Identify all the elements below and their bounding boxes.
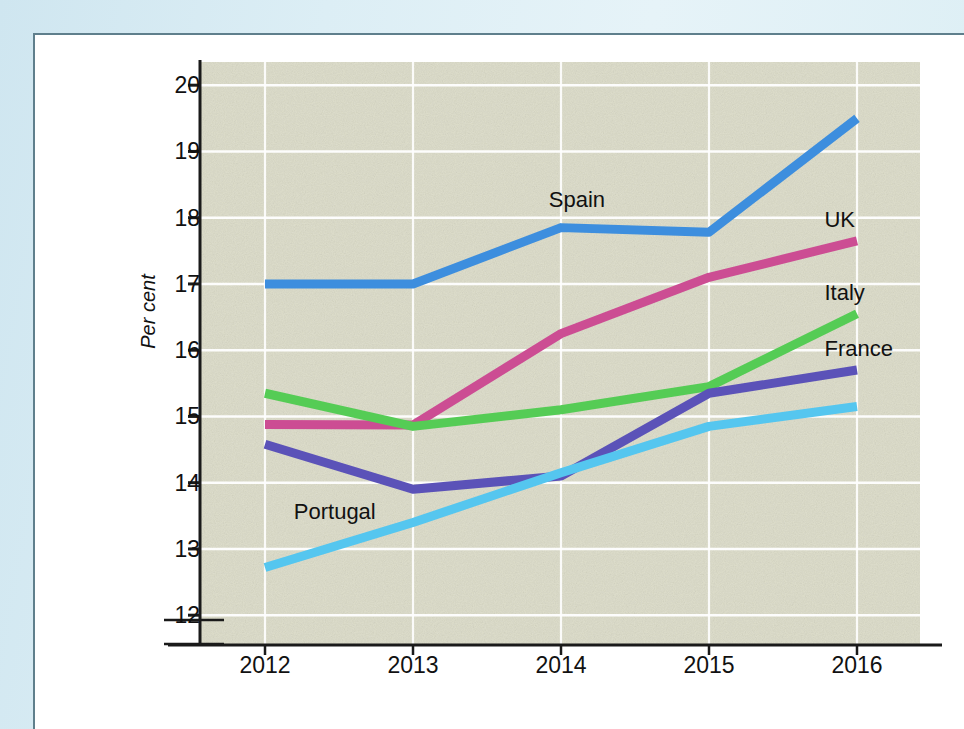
x-tick-label: 2013 (353, 652, 473, 679)
x-tick-label: 2016 (797, 652, 917, 679)
y-tick-label: 20 (140, 72, 200, 99)
chart-figure: 121314151617181920 20122013201420152016 … (0, 0, 964, 729)
series-label-france: France (824, 336, 892, 362)
series-label-spain: Spain (549, 187, 605, 213)
x-tick-label: 2012 (205, 652, 325, 679)
series-label-portugal: Portugal (294, 499, 376, 525)
series-label-italy: Italy (824, 280, 864, 306)
x-tick-label: 2014 (501, 652, 621, 679)
y-tick-label: 14 (140, 469, 200, 496)
y-tick-label: 19 (140, 138, 200, 165)
x-tick-label: 2015 (649, 652, 769, 679)
y-tick-label: 15 (140, 403, 200, 430)
series-label-uk: UK (824, 207, 855, 233)
y-tick-label: 18 (140, 204, 200, 231)
y-tick-label: 12 (140, 602, 200, 629)
y-axis-title: Per cent (137, 252, 160, 372)
y-tick-label: 13 (140, 535, 200, 562)
